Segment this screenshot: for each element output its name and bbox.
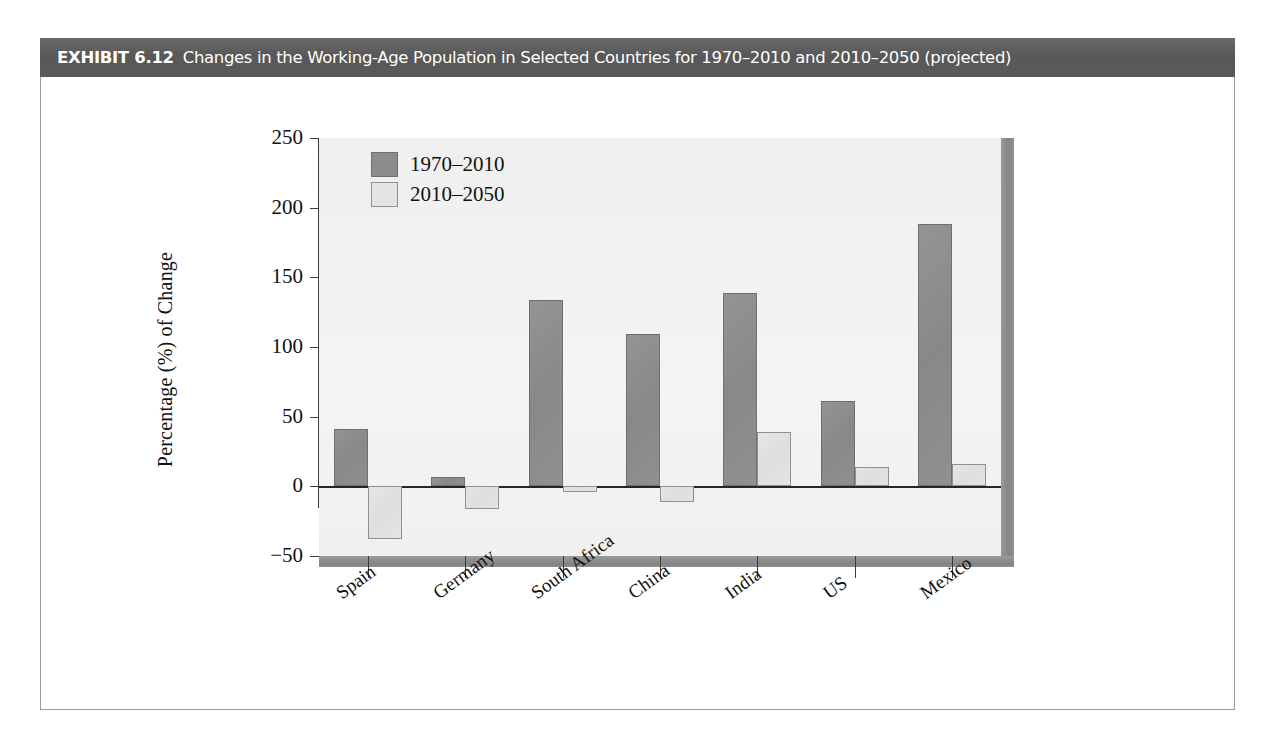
bar-south-africa-1970-2010 (529, 300, 563, 487)
plot-area: 1970–20102010–2050 (319, 138, 1001, 556)
legend-label: 1970–2010 (410, 152, 505, 177)
x-axis-label-spain: Spain (332, 561, 380, 604)
bar-spain-1970-2010 (334, 429, 368, 486)
bar-china-2010-2050 (660, 486, 694, 501)
legend-label: 2010–2050 (410, 182, 505, 207)
bar-india-2010-2050 (757, 432, 791, 486)
bar-south-africa-2010-2050 (563, 486, 597, 492)
plot-right-wall (1001, 138, 1014, 556)
legend-swatch (371, 182, 398, 207)
plot-floor-axis (319, 556, 1014, 567)
x-axis-label-india: India (721, 563, 766, 604)
legend-item-1970-2010: 1970–2010 (371, 152, 505, 177)
legend-item-2010-2050: 2010–2050 (371, 182, 505, 207)
exhibit-number-label: EXHIBIT 6.12 (57, 48, 174, 67)
y-tick-label: 200 (272, 195, 304, 220)
y-tick-label: 100 (272, 334, 304, 359)
x-axis-label-us: US (819, 572, 852, 604)
y-tick-label: 50 (282, 404, 303, 429)
bar-india-1970-2010 (723, 293, 757, 487)
bar-spain-2010-2050 (368, 486, 402, 539)
legend-swatch (371, 152, 398, 177)
bar-us-2010-2050 (855, 467, 889, 487)
bar-china-1970-2010 (626, 334, 660, 486)
y-tick-mark (310, 277, 319, 278)
bar-us-1970-2010 (821, 401, 855, 486)
y-tick-label: 0 (293, 473, 304, 498)
exhibit-title-bar: EXHIBIT 6.12 Changes in the Working-Age … (40, 38, 1235, 77)
y-tick-mark (310, 486, 319, 487)
chart-canvas: Percentage (%) of Change 250200150100500… (41, 78, 1234, 709)
y-tick-mark (310, 138, 319, 139)
y-tick-mark (310, 347, 319, 348)
bar-mexico-1970-2010 (918, 224, 952, 486)
exhibit-caption: Changes in the Working-Age Population in… (183, 48, 1011, 67)
y-tick-mark (310, 417, 319, 418)
y-tick-label: −50 (270, 543, 303, 568)
bar-germany-1970-2010 (431, 477, 465, 487)
x-tick-mark (855, 556, 856, 578)
bar-mexico-2010-2050 (952, 464, 986, 486)
y-tick-mark (310, 208, 319, 209)
chart-legend: 1970–20102010–2050 (371, 152, 505, 207)
y-tick-label: 150 (272, 264, 304, 289)
exhibit-frame: EXHIBIT 6.12 Changes in the Working-Age … (40, 38, 1235, 710)
y-tick-mark (310, 556, 319, 557)
y-tick-label: 250 (272, 125, 304, 150)
bar-germany-2010-2050 (465, 486, 499, 508)
y-axis-title: Percentage (%) of Change (154, 210, 177, 510)
